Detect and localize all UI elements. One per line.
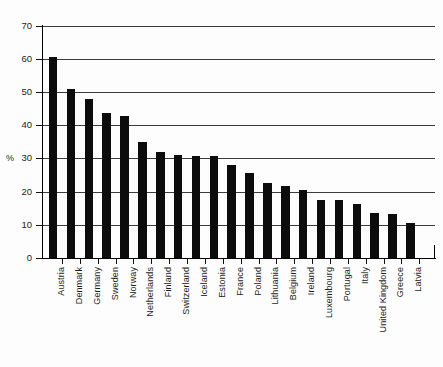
x-axis-tick-label: Netherlands <box>146 267 155 317</box>
x-axis-tick-label: Sweden <box>111 267 120 300</box>
x-axis-tick-label: Iceland <box>200 267 209 297</box>
x-axis-tick-label: Latvia <box>414 267 423 292</box>
x-axis-tick-label: Ireland <box>307 267 316 295</box>
x-axis-tick-label: Lithuania <box>271 267 280 304</box>
x-axis-tick-label: Finland <box>164 267 173 297</box>
x-axis-tick-label: Estonia <box>218 267 227 298</box>
x-axis-tick-label: Belgium <box>289 267 298 300</box>
x-axis-tick-label: France <box>236 267 245 296</box>
x-axis-tick-label: Luxembourg <box>325 267 334 318</box>
x-axis-tick-label: Greece <box>396 267 405 297</box>
x-axis-tick-label: Italy <box>361 267 370 284</box>
x-axis-tick-label: Germany <box>93 267 102 305</box>
x-axis-tick-label: Norway <box>129 267 138 298</box>
x-axis-tick-label: United Kingdom <box>379 267 388 332</box>
x-axis-tick-label: Austria <box>57 267 66 296</box>
bar-chart-figure: % 010203040506070 AustriaDenmarkGermanyS… <box>0 0 443 367</box>
x-axis-tick-label: Denmark <box>75 267 84 304</box>
x-axis-tick-label: Portugal <box>343 267 352 301</box>
x-axis-label-layer: AustriaDenmarkGermanySwedenNorwayNetherl… <box>0 0 443 367</box>
x-axis-tick-label: Switzerland <box>182 267 191 315</box>
x-axis-tick-label: Poland <box>254 267 263 296</box>
